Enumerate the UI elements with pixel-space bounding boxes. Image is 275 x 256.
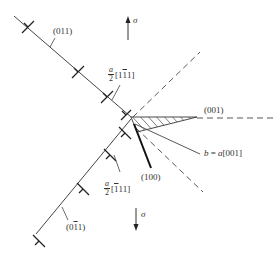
burgers-b-label: b = a[001] [204, 149, 242, 158]
dislocation-diagram [0, 0, 275, 256]
stress-down-label: σ [141, 210, 145, 219]
cleavage-plane-label: (100) [141, 173, 161, 182]
upper-plane-label: (011) [53, 27, 72, 36]
lower-plane-label: (011) [66, 223, 85, 232]
dashed-plane-upper [133, 52, 200, 117]
stress-up-label: σ [133, 16, 137, 25]
lower-burgers-label: a2 [111] [104, 180, 130, 197]
stress-arrow-up [126, 16, 131, 40]
upper-burgers-label: a2 [111] [108, 66, 135, 83]
crack-plane-label: (001) [204, 106, 224, 115]
stress-arrow-down [134, 208, 139, 231]
lower-slip-plane [36, 119, 131, 234]
dashed-plane-lower [136, 128, 203, 192]
